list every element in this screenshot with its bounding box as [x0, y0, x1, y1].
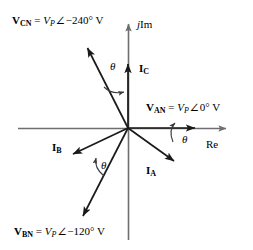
phasor-v-bn — [83, 128, 128, 216]
v-an-unit: V — [212, 101, 220, 113]
v-cn-subscript: CN — [20, 19, 32, 28]
v-cn-magnitude: V — [43, 14, 50, 26]
im-symbol: Im — [140, 18, 152, 30]
v-cn-symbol: V — [12, 14, 20, 26]
v-bn-angle: −120° — [67, 225, 94, 237]
label-i-b: IB — [52, 142, 62, 155]
label-v-cn: VCN = VP∠−240° V — [12, 13, 103, 28]
theta-label-c: θ — [110, 61, 115, 72]
v-an-subscript: AN — [154, 106, 166, 115]
phasor-i-b — [73, 128, 128, 154]
phasor-diagram-canvas — [0, 0, 253, 250]
angle-icon: ∠ — [189, 101, 200, 114]
v-bn-subscript: BN — [22, 230, 33, 239]
v-an-magnitude: V — [177, 101, 184, 113]
label-i-a: IA — [146, 165, 156, 178]
theta-label-a: θ — [182, 134, 187, 145]
label-i-c: IC — [139, 63, 149, 76]
angle-arc-theta-a — [171, 123, 175, 142]
v-bn-unit: V — [97, 225, 105, 237]
v-an-angle: 0° — [200, 101, 210, 113]
phasor-diagram-figure: VCN = VP∠−240° V VAN = VP∠0° V VBN = VP∠… — [0, 0, 253, 250]
phasor-v-cn — [88, 48, 129, 128]
label-v-an: VAN = VP∠0° V — [146, 100, 220, 115]
label-v-bn: VBN = VP∠−120° V — [14, 224, 105, 239]
v-cn-unit: V — [95, 14, 103, 26]
i-b-subscript: B — [56, 146, 61, 155]
i-a-subscript: A — [150, 169, 156, 178]
angle-icon: ∠ — [56, 225, 67, 238]
v-bn-magnitude: V — [45, 225, 52, 237]
theta-label-b: θ — [101, 160, 106, 171]
i-c-subscript: C — [143, 67, 149, 76]
imaginary-axis-label: jIm — [137, 19, 152, 30]
angle-icon: ∠ — [55, 14, 66, 27]
v-bn-symbol: V — [14, 225, 22, 237]
real-axis-label: Re — [206, 139, 218, 150]
v-an-symbol: V — [146, 101, 154, 113]
v-cn-angle: −240° — [66, 14, 93, 26]
phasor-i-a — [128, 128, 174, 161]
